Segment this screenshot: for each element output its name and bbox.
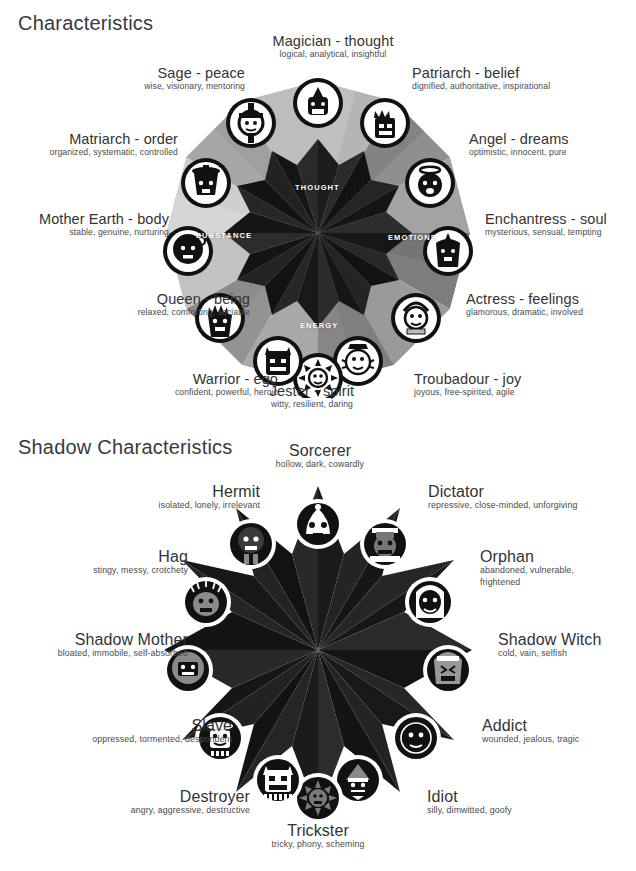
icon-medallion-orphan[interactable]	[405, 577, 455, 627]
quadrant-label-emotions: EMOTIONS	[388, 233, 437, 242]
label-slave: Slave oppressed, tormented, despondent	[0, 717, 232, 746]
label-sage: Sage - peace wise, visionary, mentoring	[0, 65, 245, 92]
quadrant-label-energy: ENERGY	[300, 321, 338, 330]
icon-medallion-patriarch[interactable]	[360, 98, 410, 148]
label-angel-desc: optimistic, innocent, pure	[469, 147, 569, 158]
label-addict-desc: wounded, jealous, tragic	[482, 734, 579, 746]
label-destroyer: Destroyer angry, aggressive, destructive	[0, 788, 250, 817]
label-trickster-desc: tricky, phony, scheming	[243, 839, 393, 851]
label-orphan: Orphan abandoned, vulnerable, frightened	[480, 548, 606, 588]
label-angel: Angel - dreams optimistic, innocent, pur…	[469, 131, 569, 158]
label-dictator-desc: repressive, close-minded, unforgiving	[428, 500, 577, 512]
label-enchantress-desc: mysterious, sensual, tempting	[485, 227, 607, 238]
icon-medallion-sage[interactable]	[226, 98, 276, 148]
label-warrior: Warrior - ego confident, powerful, heroi…	[0, 371, 278, 398]
label-trickster-name: Trickster	[243, 822, 393, 839]
label-addict-name: Addict	[482, 717, 579, 734]
label-shadow-witch: Shadow Witch cold, vain, selfish	[498, 631, 601, 660]
label-shadow-witch-desc: cold, vain, selfish	[498, 648, 601, 660]
section-title-shadow-characteristics: Shadow Characteristics	[18, 436, 233, 459]
label-enchantress: Enchantress - soul mysterious, sensual, …	[485, 211, 607, 238]
label-matriarch-name: Matriarch - order	[0, 131, 178, 147]
label-trickster: Trickster tricky, phony, scheming	[243, 822, 393, 851]
icon-medallion-angel[interactable]	[405, 158, 455, 208]
label-patriarch: Patriarch - belief dignified, authoritat…	[412, 65, 550, 92]
label-enchantress-name: Enchantress - soul	[485, 211, 607, 227]
label-hermit: Hermit isolated, lonely, irrelevant	[0, 483, 260, 512]
label-idiot-desc: silly, dimwitted, goofy	[427, 805, 512, 817]
label-sorcerer-name: Sorcerer	[245, 442, 395, 459]
icon-medallion-magician[interactable]	[293, 78, 343, 128]
label-dictator-name: Dictator	[428, 483, 577, 500]
label-hag-name: Hag	[0, 548, 188, 565]
icon-medallion-dictator[interactable]	[360, 519, 410, 569]
icon-medallion-hag[interactable]	[181, 577, 231, 627]
label-matriarch: Matriarch - order organized, systematic,…	[0, 131, 178, 158]
label-mother-earth-name: Mother Earth - body	[0, 211, 169, 227]
label-sage-name: Sage - peace	[0, 65, 245, 81]
section-title-characteristics: Characteristics	[18, 12, 153, 35]
icon-medallion-shadow-witch[interactable]	[423, 645, 473, 695]
label-sorcerer-desc: hollow, dark, cowardly	[245, 459, 395, 471]
label-slave-desc: oppressed, tormented, despondent	[0, 734, 232, 746]
label-shadow-mother-desc: bloated, immobile, self-absorbed	[0, 648, 188, 660]
label-queen-name: Queen - being	[0, 291, 250, 307]
icon-medallion-hermit[interactable]	[226, 519, 276, 569]
label-actress-name: Actress - feelings	[466, 291, 583, 307]
characteristics-wheel: THOUGHT EMOTIONS ENERGY SUBSTANCE	[158, 73, 478, 398]
icon-medallion-addict[interactable]	[391, 713, 441, 763]
label-shadow-mother: Shadow Mother bloated, immobile, self-ab…	[0, 631, 188, 660]
label-troubadour: Troubadour - joy joyous, free-spirited, …	[414, 371, 521, 398]
label-hermit-name: Hermit	[0, 483, 260, 500]
icon-medallion-destroyer[interactable]	[253, 755, 303, 805]
label-slave-name: Slave	[0, 717, 232, 734]
label-angel-name: Angel - dreams	[469, 131, 569, 147]
label-queen: Queen - being relaxed, comforting, socia…	[0, 291, 250, 318]
label-hag: Hag stingy, messy, crotchety	[0, 548, 188, 577]
label-hermit-desc: isolated, lonely, irrelevant	[0, 500, 260, 512]
label-warrior-name: Warrior - ego	[0, 371, 278, 387]
label-magician-desc: logical, analytical, insightful	[258, 49, 408, 60]
label-destroyer-name: Destroyer	[0, 788, 250, 805]
label-shadow-witch-name: Shadow Witch	[498, 631, 601, 648]
label-magician-name: Magician - thought	[258, 33, 408, 49]
label-hag-desc: stingy, messy, crotchety	[0, 565, 188, 577]
label-mother-earth: Mother Earth - body stable, genuine, nur…	[0, 211, 169, 238]
quadrant-label-thought: THOUGHT	[295, 183, 340, 192]
poster-root: Characteristics	[0, 0, 636, 871]
label-troubadour-name: Troubadour - joy	[414, 371, 521, 387]
label-jester-desc: witty, resilient, daring	[237, 399, 387, 410]
label-idiot: Idiot silly, dimwitted, goofy	[427, 788, 512, 817]
icon-medallion-actress[interactable]	[391, 293, 441, 343]
label-sorcerer: Sorcerer hollow, dark, cowardly	[245, 442, 395, 471]
label-mother-earth-desc: stable, genuine, nurturing	[0, 227, 169, 238]
label-sage-desc: wise, visionary, mentoring	[0, 81, 245, 92]
label-orphan-desc: abandoned, vulnerable, frightened	[480, 565, 606, 588]
label-dictator: Dictator repressive, close-minded, unfor…	[428, 483, 577, 512]
label-patriarch-name: Patriarch - belief	[412, 65, 550, 81]
icon-medallion-matriarch[interactable]	[181, 158, 231, 208]
label-shadow-mother-name: Shadow Mother	[0, 631, 188, 648]
label-troubadour-desc: joyous, free-spirited, agile	[414, 387, 521, 398]
label-queen-desc: relaxed, comforting, sociable	[0, 307, 250, 318]
shadow-characteristics-wheel	[158, 480, 478, 820]
label-warrior-desc: confident, powerful, heroic	[0, 387, 278, 398]
label-patriarch-desc: dignified, authoritative, inspirational	[412, 81, 550, 92]
icon-medallion-sorcerer[interactable]	[293, 499, 343, 549]
label-idiot-name: Idiot	[427, 788, 512, 805]
label-addict: Addict wounded, jealous, tragic	[482, 717, 579, 746]
label-orphan-name: Orphan	[480, 548, 606, 565]
label-actress: Actress - feelings glamorous, dramatic, …	[466, 291, 583, 318]
shadow-wheel-svg	[158, 480, 478, 820]
label-actress-desc: glamorous, dramatic, involved	[466, 307, 583, 318]
label-magician: Magician - thought logical, analytical, …	[258, 33, 408, 60]
label-destroyer-desc: angry, aggressive, destructive	[0, 805, 250, 817]
label-matriarch-desc: organized, systematic, controlled	[0, 147, 178, 158]
quadrant-label-substance: SUBSTANCE	[196, 231, 252, 240]
